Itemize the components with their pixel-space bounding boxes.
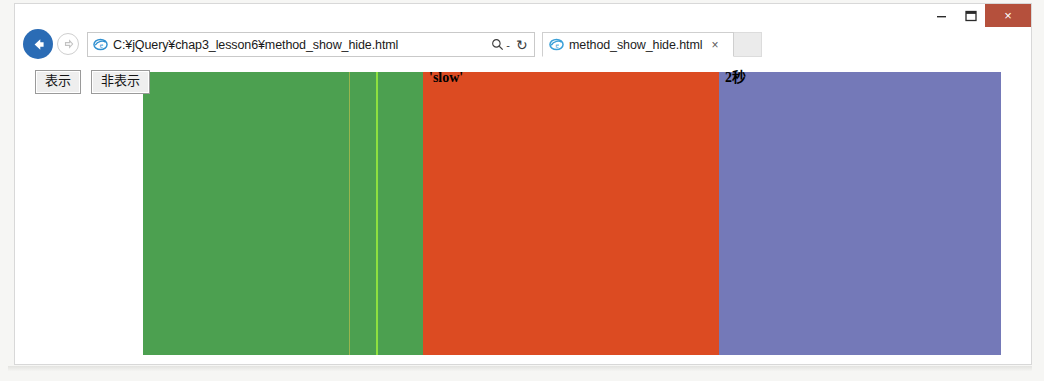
tab-method-show-hide[interactable]: e method_show_hide.html × — [542, 32, 734, 57]
back-button[interactable] — [23, 29, 53, 59]
internet-explorer-icon: e — [92, 37, 108, 53]
forward-arrow-icon — [61, 37, 75, 51]
purple-block[interactable]: 2秒 — [719, 72, 1001, 355]
olive-divider-line — [349, 72, 350, 355]
tab-strip: e method_show_hide.html × — [542, 32, 762, 57]
bright-green-divider-line — [376, 72, 378, 355]
orange-block-label: 'slow' — [429, 71, 463, 85]
browser-window: × e C:¥jQuery¥chap3_lesson6¥method — [14, 3, 1032, 365]
page-button-group: 表示 非表示 — [35, 70, 150, 94]
page-content: 表示 非表示 'slow' 2秒 — [16, 59, 1030, 363]
search-icon[interactable]: - — [491, 38, 510, 51]
green-block[interactable] — [143, 72, 423, 355]
purple-block-label: 2秒 — [725, 71, 746, 85]
hide-button[interactable]: 非表示 — [91, 70, 150, 94]
tab-title: method_show_hide.html — [569, 38, 702, 52]
minimize-button[interactable] — [927, 4, 956, 27]
close-button[interactable]: × — [985, 4, 1031, 27]
back-arrow-icon — [30, 36, 47, 53]
refresh-icon[interactable]: ↻ — [516, 37, 530, 53]
close-icon[interactable]: × — [711, 39, 718, 51]
show-button[interactable]: 表示 — [35, 70, 81, 94]
new-tab-button[interactable] — [734, 32, 762, 57]
svg-text:e: e — [99, 41, 103, 50]
scan-edge-shadow — [8, 366, 1032, 371]
navigation-toolbar: e C:¥jQuery¥chap3_lesson6¥method_show_hi… — [15, 26, 1031, 62]
color-blocks-row: 'slow' 2秒 — [143, 72, 1001, 355]
svg-text:e: e — [555, 41, 559, 50]
maximize-restore-button[interactable] — [956, 4, 985, 27]
close-icon: × — [1004, 9, 1012, 22]
address-bar[interactable]: e C:¥jQuery¥chap3_lesson6¥method_show_hi… — [87, 32, 535, 57]
orange-block[interactable]: 'slow' — [423, 72, 719, 355]
address-text: C:¥jQuery¥chap3_lesson6¥method_show_hide… — [113, 38, 491, 52]
internet-explorer-icon: e — [548, 37, 564, 53]
forward-button[interactable] — [57, 33, 79, 55]
